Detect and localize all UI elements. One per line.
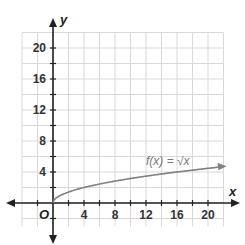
- x-axis-label: x: [228, 184, 237, 199]
- x-axis-right-arrow-icon: [231, 199, 240, 207]
- sqrt-function-graph: x y O f(x) = √x 4 8 12 16 20 4 8 12 16 2…: [0, 0, 245, 245]
- x-axis-left-arrow-icon: [6, 199, 15, 207]
- svg-text:8: 8: [39, 134, 46, 148]
- coordinate-plane: x y O f(x) = √x 4 8 12 16 20 4 8 12 16 2…: [0, 0, 245, 245]
- svg-text:16: 16: [33, 72, 47, 86]
- y-axis-bottom-arrow-icon: [49, 235, 57, 244]
- svg-text:12: 12: [33, 103, 47, 117]
- x-tick-labels: 4 8 12 16 20: [81, 208, 215, 222]
- svg-text:4: 4: [39, 165, 46, 179]
- svg-text:8: 8: [112, 208, 119, 222]
- y-axis-top-arrow-icon: [49, 18, 57, 27]
- function-label: f(x) = √x: [146, 154, 191, 168]
- svg-text:4: 4: [81, 208, 88, 222]
- origin-label: O: [39, 207, 49, 222]
- svg-text:12: 12: [139, 208, 153, 222]
- axis-ticks: [38, 48, 209, 219]
- y-tick-labels: 4 8 12 16 20: [33, 41, 47, 179]
- svg-text:20: 20: [201, 208, 215, 222]
- curve-arrow-icon: [218, 163, 227, 171]
- svg-text:16: 16: [170, 208, 184, 222]
- y-axis-label: y: [59, 12, 68, 27]
- svg-text:20: 20: [33, 41, 47, 55]
